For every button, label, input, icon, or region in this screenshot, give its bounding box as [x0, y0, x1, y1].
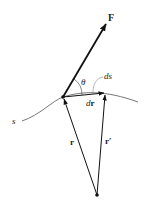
force-label: F	[108, 12, 114, 23]
point-start	[61, 95, 65, 99]
work-vector-diagram: F θ ds dr s r r′	[0, 0, 150, 212]
origin-point	[95, 193, 99, 197]
position-r-prime-label: r′	[105, 136, 112, 146]
displacement-r-part: r	[91, 98, 95, 108]
angle-theta-label: θ	[81, 77, 86, 87]
ds-leader-line	[93, 77, 103, 92]
path-s-label: s	[12, 116, 16, 126]
arc-length-ds-label: ds	[104, 71, 113, 81]
path-curve-s	[22, 93, 138, 121]
position-vector-r-prime-arrow	[97, 95, 105, 195]
position-vector-r-arrow	[64, 99, 97, 195]
position-r-label: r	[70, 137, 74, 147]
displacement-dr-label: dr	[86, 98, 95, 108]
